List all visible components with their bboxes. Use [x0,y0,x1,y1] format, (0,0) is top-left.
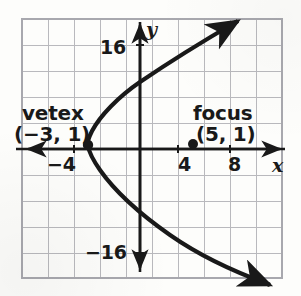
y-tick-label-neg16: −16 [85,243,127,262]
vertex-coordinate-label: (−3, 1) [14,124,90,144]
x-axis-label: x [272,156,283,175]
focus-label: focus [193,103,252,123]
x-tick-label-8: 8 [228,155,241,174]
coordinate-plane-svg [0,0,301,296]
x-tick-label-neg4: −4 [47,155,76,174]
y-axis-label: y [146,20,157,39]
math-figure-parabola: vetex (−3, 1) focus (5, 1) −4 4 8 16 −16… [0,0,301,296]
y-tick-label-16: 16 [100,38,126,57]
vertex-label: vetex [22,103,84,123]
focus-coordinate-label: (5, 1) [196,124,255,144]
x-tick-label-4: 4 [178,155,191,174]
